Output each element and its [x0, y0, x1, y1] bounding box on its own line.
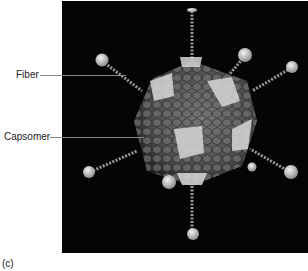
fiber-leader-line: [40, 75, 126, 76]
capsomer-label: Capsomer: [4, 132, 50, 142]
virus-illustration: [62, 1, 308, 253]
virus-model-image: [62, 1, 308, 253]
panel-label: (c): [2, 258, 14, 269]
capsomer-leader-line: [50, 137, 144, 138]
fiber-label: Fiber: [16, 70, 39, 80]
